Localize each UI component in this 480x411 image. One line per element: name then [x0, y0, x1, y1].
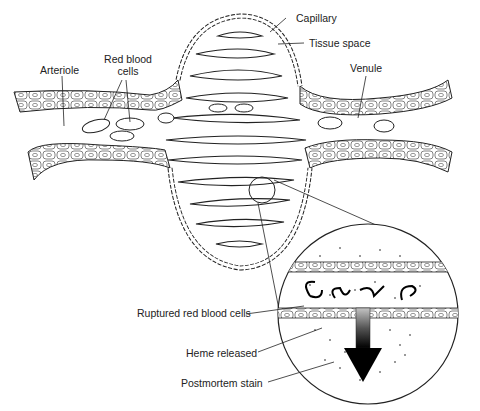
label-red-blood-cells: Red blood cells [104, 54, 152, 77]
label-tissue-space: Tissue space [309, 38, 370, 50]
label-heme-released: Heme released [186, 348, 257, 360]
label-venule: Venule [350, 63, 382, 75]
label-ruptured-rbc: Ruptured red blood cells [137, 308, 251, 320]
magnified-view [270, 224, 470, 404]
label-postmortem-stain: Postmortem stain [181, 378, 263, 390]
label-capillary: Capillary [296, 13, 337, 25]
label-arteriole: Arteriole [40, 65, 79, 77]
capillary-loops [166, 32, 306, 247]
